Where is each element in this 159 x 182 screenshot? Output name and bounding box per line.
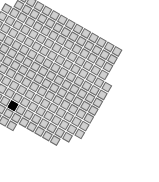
footprint-diagram: [0, 0, 159, 182]
